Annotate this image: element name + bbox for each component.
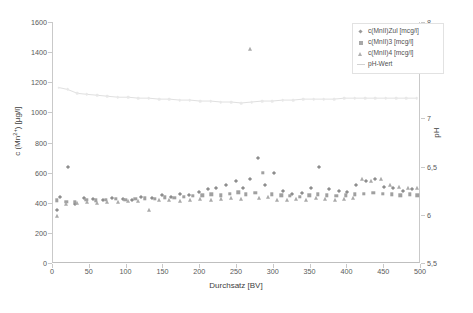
data-point-triangle <box>294 197 298 201</box>
legend-line-icon <box>356 60 365 69</box>
legend-square-icon <box>356 38 365 47</box>
data-point-triangle <box>126 199 130 203</box>
y-tick-label-right: 7 <box>427 114 431 123</box>
data-point-triangle <box>136 199 140 203</box>
data-point-triangle <box>167 198 171 202</box>
data-point-square <box>173 196 176 199</box>
data-point-square <box>55 199 58 202</box>
legend-triangle-icon <box>356 49 365 58</box>
y-tick-label-left: 1200 <box>31 78 47 87</box>
x-tick-label: 450 <box>377 267 389 276</box>
legend-item-label: c(MnII)3 [mcg/l] <box>368 39 413 46</box>
y-axis-left-ticks: 02004006008001000120014001600 <box>0 0 47 313</box>
data-point-square <box>182 195 185 198</box>
data-point-triangle <box>248 47 252 51</box>
chart-container: 02004006008001000120014001600 5,566,577,… <box>0 0 473 313</box>
data-point-triangle <box>178 199 182 203</box>
data-point-ph <box>250 101 253 104</box>
y-tick-label-left: 200 <box>35 228 47 237</box>
data-point-triangle <box>219 197 223 201</box>
legend-item-3[interactable]: pH-Wert <box>356 59 441 70</box>
y-tick-label-left: 1400 <box>31 48 47 57</box>
y-tick-label-right: 5,5 <box>427 259 437 268</box>
data-point-triangle <box>285 198 289 202</box>
x-tick-label: 400 <box>340 267 352 276</box>
data-point-triangle <box>239 197 243 201</box>
legend-item-1[interactable]: c(MnII)3 [mcg/l] <box>356 37 441 48</box>
data-point-square <box>270 193 273 196</box>
data-point-ph <box>323 98 326 101</box>
legend-item-0[interactable]: c(MnII)Zul [mcg/l] <box>356 26 441 37</box>
data-point-triangle <box>198 197 202 201</box>
legend-item-label: pH-Wert <box>368 61 392 68</box>
data-point-square <box>143 197 146 200</box>
y-tick-mark-left <box>48 82 52 83</box>
data-point-square <box>254 191 257 194</box>
y-tick-label-left: 400 <box>35 198 47 207</box>
data-point-triangle <box>406 185 410 189</box>
data-point-ph <box>96 94 99 97</box>
data-point-square <box>298 195 301 198</box>
y-tick-mark-right <box>421 167 425 168</box>
data-point-ph <box>116 96 119 99</box>
x-tick-label: 200 <box>193 267 205 276</box>
legend-item-2[interactable]: c(MnII)4 [mcg/l] <box>356 48 441 59</box>
ph-line-path <box>59 88 417 103</box>
y-tick-label-left: 600 <box>35 168 47 177</box>
data-point-ph <box>271 100 274 103</box>
x-tick-mark <box>162 264 163 268</box>
legend-item-label: c(MnII)Zul [mcg/l] <box>368 28 419 35</box>
x-tick-label: 100 <box>120 267 132 276</box>
data-point-square <box>399 194 402 197</box>
y-tick-label-left: 800 <box>35 138 47 147</box>
y-axis-left-title: c (Mn2+) [µg/l] <box>12 66 23 196</box>
data-point-ph <box>178 99 181 102</box>
data-point-square <box>153 197 156 200</box>
data-point-ph <box>127 96 130 99</box>
legend-diamond-icon <box>356 27 365 36</box>
data-point-ph <box>353 97 356 100</box>
data-point-triangle <box>188 198 192 202</box>
x-tick-mark <box>52 264 53 268</box>
x-tick-mark <box>236 264 237 268</box>
x-tick-label: 300 <box>267 267 279 276</box>
y-tick-mark-left <box>48 173 52 174</box>
data-point-triangle <box>209 198 213 202</box>
x-axis-title: Durchsatz [BV] <box>52 281 420 290</box>
data-point-triangle <box>229 196 233 200</box>
x-tick-mark <box>273 264 274 268</box>
data-point-square <box>307 194 310 197</box>
data-point-ph <box>199 100 202 103</box>
data-point-ph <box>58 86 61 89</box>
y-tick-label-right: 6,5 <box>427 162 437 171</box>
x-tick-mark <box>89 264 90 268</box>
x-tick-label: 500 <box>414 267 426 276</box>
data-point-triangle <box>147 208 151 212</box>
data-point-triangle <box>369 179 373 183</box>
data-point-triangle <box>333 198 337 202</box>
data-point-triangle <box>275 198 279 202</box>
chart-legend: c(MnII)Zul [mcg/l]c(MnII)3 [mcg/l]c(MnII… <box>352 23 444 74</box>
data-point-triangle <box>388 182 392 186</box>
data-point-ph <box>240 102 243 105</box>
x-tick-label: 0 <box>50 267 54 276</box>
data-point-triangle <box>116 200 120 204</box>
data-point-square <box>261 171 264 174</box>
data-point-triangle <box>75 201 79 205</box>
data-point-ph <box>384 97 387 100</box>
data-point-ph <box>395 97 398 100</box>
data-point-ph <box>76 92 79 95</box>
data-point-ph <box>66 88 69 91</box>
data-point-square <box>362 192 365 195</box>
data-point-ph <box>189 99 192 102</box>
y-tick-mark-right <box>421 118 425 119</box>
data-point-triangle <box>266 195 270 199</box>
data-point-ph <box>158 98 161 101</box>
data-point-triangle <box>105 199 109 203</box>
x-tick-label: 150 <box>156 267 168 276</box>
y-tick-mark-left <box>48 112 52 113</box>
y-axis-right-title: pH <box>432 103 441 163</box>
data-point-square <box>371 191 374 194</box>
data-point-triangle <box>55 214 59 218</box>
data-point-ph <box>302 98 305 101</box>
